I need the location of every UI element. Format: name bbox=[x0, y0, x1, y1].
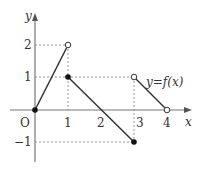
x-tick-1: 1 bbox=[64, 116, 72, 130]
closed-point-0-0 bbox=[32, 107, 38, 113]
function-graph: y x O 1 2 3 4 2 1 −1 y=f(x) bbox=[0, 0, 202, 170]
open-point-1-2 bbox=[65, 42, 71, 48]
function-label: y=f(x) bbox=[145, 75, 184, 89]
open-point-4-0 bbox=[164, 107, 170, 113]
y-tick-2: 2 bbox=[24, 38, 32, 52]
y-tick-1: 1 bbox=[24, 70, 32, 84]
x-tick-4: 4 bbox=[163, 116, 171, 130]
y-axis-label: y bbox=[24, 9, 32, 23]
y-axis-arrow-icon bbox=[32, 13, 38, 21]
x-tick-3: 3 bbox=[136, 116, 144, 130]
segment-1 bbox=[35, 48, 67, 110]
open-point-3-1 bbox=[131, 74, 137, 80]
x-axis-arrow-icon bbox=[184, 107, 192, 113]
x-tick-2: 2 bbox=[97, 116, 105, 130]
closed-point-1-1 bbox=[65, 74, 71, 80]
x-axis-label: x bbox=[185, 115, 192, 129]
y-tick-minus1: −1 bbox=[14, 135, 32, 149]
closed-point-3-m1 bbox=[131, 139, 137, 145]
origin-label: O bbox=[20, 116, 30, 130]
